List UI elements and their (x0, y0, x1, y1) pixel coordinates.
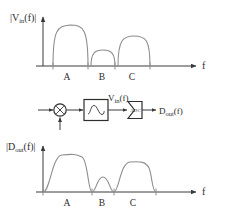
output-band-b-curve (92, 177, 114, 192)
input-band-c-curve (118, 36, 150, 66)
input-plot-x-axis-label: f (202, 60, 206, 71)
input-band-label-b: B (99, 72, 105, 82)
output-band-c-curve (114, 162, 156, 192)
figure-root: |Vin(f)| f A B C (0, 0, 231, 209)
output-plot-y-axis-label: |Dout(f)| (6, 141, 36, 153)
output-signal-label: Dout(f) (159, 106, 183, 117)
input-band-b-curve (91, 50, 115, 66)
output-plot-x-axis-label: f (202, 186, 206, 197)
output-spectrum-plot: |Dout(f)| f A B C (6, 141, 206, 208)
input-band-a-curve (53, 25, 88, 66)
output-band-label-c: C (130, 198, 136, 208)
adc-block-label: ADC (130, 108, 140, 113)
output-band-label-b: B (99, 198, 105, 208)
filter-block[interactable] (84, 100, 108, 121)
intermediate-signal-label: Vin(f) (108, 93, 129, 104)
input-band-label-a: A (64, 72, 71, 82)
output-band-a-curve (43, 154, 92, 192)
input-band-label-c: C (129, 72, 135, 82)
signal-chain-block-diagram: ADC Vin(f) Dout(f) (38, 93, 183, 130)
input-plot-y-axis-label: |Vin(f)| (10, 12, 36, 24)
input-spectrum-plot: |Vin(f)| f A B C (10, 12, 206, 82)
output-band-label-a: A (64, 198, 71, 208)
signal-chain-figure: |Vin(f)| f A B C (0, 0, 231, 209)
